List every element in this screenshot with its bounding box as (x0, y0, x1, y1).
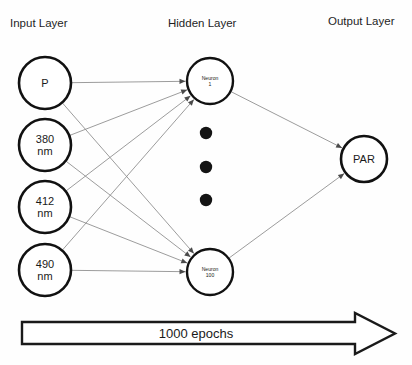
epochs-arrow-group: 1000 epochs (22, 313, 395, 354)
epochs-arrow-label: 1000 epochs (159, 326, 234, 341)
edge-arrowhead (338, 173, 344, 179)
node-label-nm490-line2: nm (37, 270, 52, 282)
node-label-nm412: 412 (36, 195, 54, 207)
edge-nm490-to-neuron100 (71, 270, 186, 271)
edge-p-to-neuron100 (62, 103, 194, 254)
node-label-nm412-line2: nm (37, 207, 52, 219)
layer-labels-group: Input LayerHidden LayerOutput Layer (10, 15, 395, 29)
node-nm490: 490nm (19, 244, 71, 296)
node-nm380: 380nm (19, 119, 71, 171)
nodes-group: P380nm412nm490nmNeuron1Neuron100PAR (19, 57, 387, 296)
edge-arrowhead (181, 90, 188, 95)
edge-p-to-neuron1 (71, 81, 186, 82)
edge-nm380-to-neuron1 (69, 90, 187, 136)
node-nm412: 412nm (19, 181, 71, 233)
edge-arrowhead (184, 96, 190, 102)
node-par: PAR (341, 136, 387, 182)
node-p: P (19, 57, 71, 109)
ellipsis-dot-1 (200, 127, 212, 139)
edge-arrowhead (181, 258, 188, 263)
edge-arrowhead (179, 269, 185, 274)
node-label-par: PAR (353, 153, 375, 165)
edge-neuron1-to-par (231, 91, 343, 148)
node-label-nm490: 490 (36, 258, 54, 270)
edge-neuron100-to-par (229, 173, 345, 258)
node-label-nm380-line2: nm (37, 145, 52, 157)
node-label-neuron1-line2: 1 (209, 81, 212, 87)
layer-label-input: Input Layer (10, 17, 68, 29)
ellipsis-dot-3 (200, 194, 212, 206)
layer-label-hidden: Hidden Layer (168, 17, 237, 29)
edge-nm412-to-neuron1 (66, 96, 191, 191)
diagram-canvas: P380nm412nm490nmNeuron1Neuron100PAR Inpu… (0, 0, 412, 365)
edges-group (62, 79, 344, 274)
node-label-p: P (41, 77, 48, 89)
neural-network-diagram: P380nm412nm490nmNeuron1Neuron100PAR Inpu… (0, 0, 412, 365)
layer-label-output: Output Layer (328, 15, 395, 27)
edge-nm490-to-neuron1 (62, 99, 194, 250)
edge-arrowhead (179, 79, 185, 84)
node-neuron1: Neuron1 (187, 58, 233, 104)
edge-arrowhead (184, 251, 190, 257)
node-label-neuron100-line2: 100 (206, 272, 215, 278)
ellipsis-dot-2 (200, 161, 212, 173)
hidden-layer-ellipsis (200, 127, 212, 206)
node-label-nm380: 380 (36, 133, 54, 145)
node-neuron100: Neuron100 (187, 249, 233, 295)
edge-nm412-to-neuron100 (69, 217, 187, 263)
